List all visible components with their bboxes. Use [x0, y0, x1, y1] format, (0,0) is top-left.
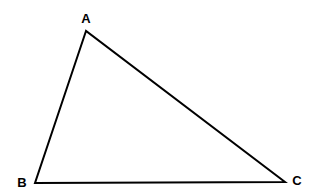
vertex-label-a: A	[81, 11, 91, 26]
vertex-label-b: B	[17, 175, 26, 190]
vertex-label-c: C	[292, 173, 302, 188]
triangle-diagram: A B C	[0, 0, 318, 195]
triangle-abc	[35, 31, 285, 183]
